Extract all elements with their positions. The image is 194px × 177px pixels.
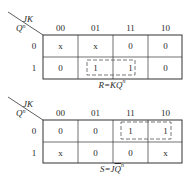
row-var-label: Qn [16,24,26,33]
col-header: 11 [113,109,148,118]
map-cell: x [148,142,183,164]
map-cell: 0 [78,120,113,142]
map-cell: 1 [148,120,183,142]
map-cell: 0 [43,57,78,79]
map-cell: 1 [113,120,148,142]
row-header: 0 [28,35,40,57]
col-header: 01 [78,24,113,33]
row-header: 1 [28,57,40,79]
caption-sup: n [123,78,126,84]
col-header: 00 [43,24,78,33]
col-header: 01 [78,109,113,118]
row-var-sup: n [23,108,26,114]
col-header: 10 [148,24,183,33]
map-cell: x [43,35,78,57]
col-header: 11 [113,24,148,33]
row-var-sup: n [23,23,26,29]
col-header: 10 [148,109,183,118]
row-var-label: Qn [16,109,26,118]
row-header: 1 [28,142,40,164]
karnaugh-map-s: JK Qn 00 01 11 10 0 1 0 0 1 1 x 0 0 x S=… [0,85,194,173]
map-cell: 0 [43,120,78,142]
map-cell: 1 [113,57,148,79]
map-cell: 0 [113,142,148,164]
map-cell: x [43,142,78,164]
row-var: Q [16,108,23,118]
map-s-caption: S=JQn [72,164,152,174]
map-cell: 0 [113,35,148,57]
karnaugh-map-r: JK Qn 00 01 11 10 0 1 x x 0 0 0 1 1 0 R=… [0,0,194,88]
col-header: 00 [43,109,78,118]
map-cell: x [78,35,113,57]
row-header: 0 [28,120,40,142]
map-cell: 0 [78,142,113,164]
map-cell: 0 [148,35,183,57]
row-var: Q [16,23,23,33]
caption-sup: n [121,162,124,168]
map-cell: 0 [148,57,183,79]
map-cell: 1 [78,57,113,79]
